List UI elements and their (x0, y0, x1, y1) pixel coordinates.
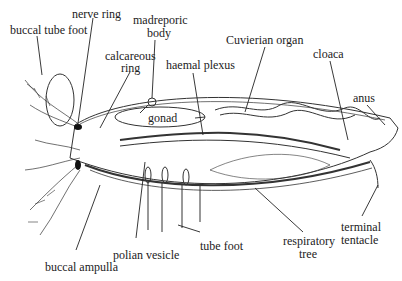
label-anus: anus (353, 92, 375, 104)
label-buccal-ampulla: buccal ampulla (45, 261, 118, 273)
label-calcareous-ring-line2: ring (121, 62, 140, 74)
label-polian-vesicle: polian vesicle (113, 249, 179, 261)
label-terminal-tentacle-line1: terminal (341, 221, 381, 233)
label-respiratory-tree-line2: tree (299, 248, 317, 260)
label-madreporic-body-line1: madreporic (133, 14, 188, 26)
label-buccal-tube-foot: buccal tube foot (10, 24, 87, 36)
label-respiratory-tree-line1: respiratory (283, 235, 335, 247)
label-cloaca: cloaca (313, 48, 344, 60)
label-nerve-ring: nerve ring (72, 8, 121, 20)
label-madreporic-body-line2: body (147, 27, 171, 39)
label-tube-foot: tube foot (200, 240, 243, 252)
label-terminal-tentacle-line2: tentacle (341, 234, 378, 246)
label-cuvierian-organ: Cuvierian organ (226, 34, 303, 46)
label-haemal-plexus: haemal plexus (166, 59, 235, 71)
label-gonad: gonad (148, 112, 177, 124)
anatomy-diagram: buccal tube foot nerve ring madreporic b… (0, 0, 402, 281)
